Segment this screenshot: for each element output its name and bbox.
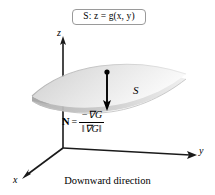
surface-equation-text: S: z = g(x, y) [83, 12, 134, 22]
normal-vector-fraction: −∇G ‖∇G‖ [79, 110, 104, 134]
fraction-numerator: −∇G [79, 110, 104, 122]
figure-caption: Downward direction [0, 176, 215, 187]
normal-vector-formula: N = −∇G ‖∇G‖ [62, 110, 104, 134]
z-axis-label: z [57, 28, 61, 38]
y-axis-label: y [199, 146, 203, 156]
diagram-canvas [0, 0, 215, 195]
fraction-denominator: ‖∇G‖ [80, 123, 104, 135]
surface-equation-label: S: z = g(x, y) [72, 9, 146, 25]
equals-sign: = [72, 117, 78, 127]
x-axis [22, 148, 63, 179]
figure-downward-normal-vector: S: z = g(x, y) z y x S N = −∇G ‖∇G‖ Down… [0, 0, 215, 195]
surface-label-s: S [133, 85, 139, 96]
normal-vector-symbol: N [62, 117, 70, 128]
y-axis [63, 148, 197, 159]
